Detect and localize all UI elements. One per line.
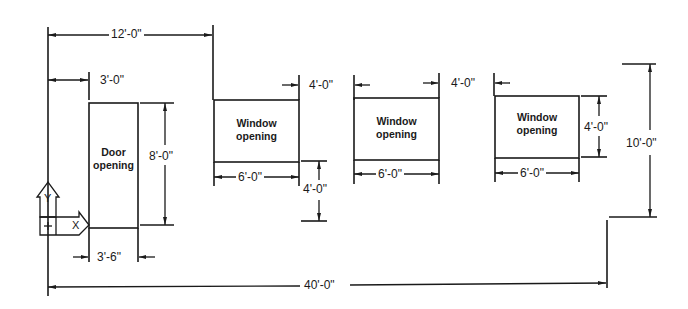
- ucs-y-label: Y: [44, 193, 51, 204]
- dim-label-sill-height: 4'-0": [301, 183, 329, 195]
- dim-label-gap2: 4'-0": [449, 77, 477, 89]
- window1-label: Window opening: [214, 117, 299, 142]
- dim-label-window3-width: 6'-0": [518, 167, 546, 179]
- dim-label-window2-width: 6'-0": [376, 168, 404, 180]
- dim-label-wall-length: 40'-0": [302, 279, 337, 291]
- door-opening-label: Door opening: [89, 146, 138, 171]
- ucs-x-label: X: [72, 220, 79, 231]
- dim-label-gap1: 4'-0": [307, 79, 335, 91]
- dim-label-wall-height: 10'-0": [624, 137, 659, 149]
- dim-label-12ft: 12'-0": [109, 28, 144, 40]
- dim-label-door-height: 8'-0": [147, 150, 175, 162]
- window3-label: Window opening: [495, 111, 579, 136]
- ucs-icon: [37, 182, 89, 235]
- dim-label-door-offset: 3'-0": [98, 74, 126, 86]
- window2-label: Window opening: [354, 115, 439, 140]
- dim-label-window3-height: 4'-0": [582, 121, 610, 133]
- dim-label-window1-width: 6'-0": [236, 171, 264, 183]
- dim-label-door-width: 3'-6": [95, 251, 123, 263]
